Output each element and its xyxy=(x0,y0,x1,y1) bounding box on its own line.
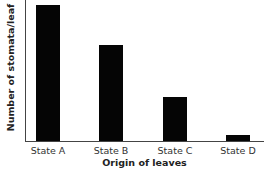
x-tick-label: State C xyxy=(145,145,205,156)
x-tick-label: State A xyxy=(18,145,78,156)
y-axis-line xyxy=(25,0,26,141)
x-axis-line xyxy=(25,141,264,142)
bar-chart: Number of stomata/leaf State A State B S… xyxy=(0,0,264,170)
bar-state-a xyxy=(36,5,60,141)
y-axis-label: Number of stomata/leaf xyxy=(5,0,16,136)
x-axis-label: Origin of leaves xyxy=(25,157,264,168)
bar-state-c xyxy=(163,97,187,141)
x-tick-label: State B xyxy=(81,145,141,156)
x-tick-label: State D xyxy=(208,145,264,156)
bar-state-d xyxy=(226,135,250,141)
bar-state-b xyxy=(99,45,123,141)
